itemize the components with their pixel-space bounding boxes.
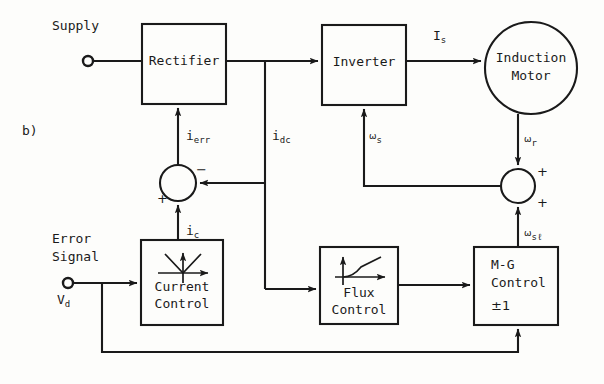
signal-label-i-err: ierr [186, 128, 210, 145]
signal-label-omega-r: ωr [524, 131, 537, 148]
signal-label-omega-sl: ωsℓ [524, 225, 542, 242]
speed-summing-junction [501, 169, 535, 203]
I-s-subscript: s [441, 35, 446, 45]
motor-label-line1: Induction [486, 50, 576, 65]
figure-canvas: b) Supply Rectifier Inverter Induction M… [0, 0, 604, 384]
error-signal-label-line2: Signal [52, 249, 99, 264]
i-dc-subscript: dc [280, 135, 291, 145]
current-error-junction-minus-sign: − [196, 163, 207, 176]
speed-junction-plus-sign-bottom: + [537, 196, 548, 209]
mg-control-label-line3: ±1 [491, 298, 510, 313]
speed-junction-plus-sign-top: + [537, 165, 548, 178]
rectifier-label: Rectifier [142, 53, 226, 68]
omega-r-subscript: r [532, 138, 537, 148]
omega-r-base: ω [524, 134, 532, 144]
vd-subscript: d [65, 299, 70, 309]
supply-label: Supply [52, 18, 99, 33]
omega-s-subscript: s [377, 135, 382, 145]
flux-control-label-line1: Flux [318, 285, 400, 300]
mg-control-label-line1: M-G [491, 257, 514, 272]
signal-label-I-s: Is [433, 28, 446, 45]
i-dc-base: i [272, 128, 280, 143]
flux-control-label-line2: Control [318, 302, 400, 317]
signal-label-omega-s: ωs [369, 128, 382, 145]
current-control-label-line1: Current [139, 279, 225, 294]
wire-omega-s-to-inverter [364, 109, 501, 186]
supply-terminal-dot [83, 56, 93, 66]
current-control-label-line2: Control [139, 296, 225, 311]
flux-control-characteristic-icon [329, 253, 391, 287]
mg-control-label-line2: Control [491, 275, 546, 290]
vd-terminal-label: Vd [57, 292, 70, 309]
i-err-subscript: err [194, 135, 210, 145]
inverter-label: Inverter [322, 54, 406, 69]
signal-label-i-dc: idc [272, 128, 291, 145]
omega-sl-subscript: sℓ [532, 232, 543, 242]
omega-sl-base: ω [524, 228, 532, 238]
I-s-base: I [433, 28, 441, 43]
vd-base: V [57, 292, 65, 307]
error-signal-terminal-dot [63, 278, 73, 288]
current-error-junction-plus-sign: + [157, 192, 168, 205]
signal-label-i-c: ic [186, 223, 199, 240]
omega-s-base: ω [369, 131, 377, 141]
i-c-subscript: c [194, 230, 199, 240]
i-c-base: i [186, 223, 194, 238]
i-err-base: i [186, 128, 194, 143]
error-signal-label-line1: Error [52, 231, 91, 246]
part-label: b) [22, 123, 38, 138]
motor-label-line2: Motor [486, 68, 576, 83]
